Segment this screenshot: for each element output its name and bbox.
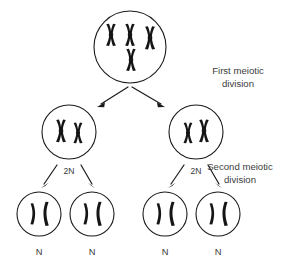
ploidy-label-gamete-1: N: [36, 247, 43, 257]
second-division-arrow-1: [41, 165, 57, 188]
daughter-cell-right: [169, 105, 223, 159]
meiosis-diagram-canvas: First meiotic division Second meiotic di…: [0, 0, 293, 271]
second-division-label-line2: division: [224, 174, 256, 185]
first-division-arrow-left: [97, 87, 128, 107]
second-division-arrow-3: [168, 165, 184, 188]
gamete-cell-2-membrane: [70, 192, 114, 236]
gamete-cell-2: [70, 192, 114, 236]
first-division-arrow-right: [132, 87, 165, 107]
parent-cell: [94, 11, 166, 83]
second-division-arrow-2: [81, 165, 95, 188]
ploidy-label-gamete-3: N: [162, 247, 169, 257]
gamete-cell-1: [17, 192, 61, 236]
gamete-cell-3: [143, 192, 187, 236]
daughter-cell-right-membrane: [169, 105, 223, 159]
ploidy-label-right-2n: 2N: [191, 166, 202, 176]
first-division-label-line1: First meiotic: [212, 65, 264, 76]
parent-cell-membrane: [94, 11, 166, 83]
second-division-label-line1: Second meiotic: [207, 161, 273, 172]
gamete-cell-1-membrane: [17, 192, 61, 236]
gamete-cell-4-membrane: [196, 192, 240, 236]
first-division-label-line2: division: [222, 78, 254, 89]
daughter-cell-left-membrane: [42, 105, 96, 159]
ploidy-label-gamete-4: N: [215, 247, 222, 257]
meiosis-diagram: First meiotic division Second meiotic di…: [0, 0, 293, 271]
ploidy-label-gamete-2: N: [89, 247, 96, 257]
ploidy-label-left-2n: 2N: [64, 166, 75, 176]
daughter-cell-left: [42, 105, 96, 159]
gamete-cell-3-membrane: [143, 192, 187, 236]
gamete-cell-4: [196, 192, 240, 236]
